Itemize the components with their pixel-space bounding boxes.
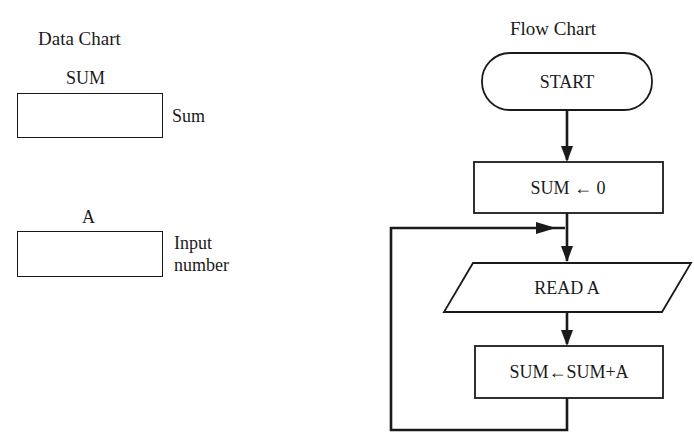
start-node-label: START <box>540 72 594 93</box>
arrowhead-down-icon <box>561 146 573 162</box>
variable-description-sum: Sum <box>172 105 205 127</box>
read-node-label: READ A <box>534 278 600 299</box>
data-chart-title: Data Chart <box>38 28 121 50</box>
arrowhead-down-icon <box>561 330 573 346</box>
variable-box-sum <box>17 93 163 138</box>
variable-name-sum: SUM <box>66 68 105 89</box>
variable-description-a-line1: Input <box>174 232 212 254</box>
init-node-label: SUM ← 0 <box>530 178 605 199</box>
arrowhead-right-icon <box>536 222 556 234</box>
edge-loop-back <box>391 228 567 430</box>
variable-name-a: A <box>82 207 95 228</box>
variable-description-a-line2: number <box>174 254 229 276</box>
accumulate-node-label: SUM←SUM+A <box>509 362 628 383</box>
arrowhead-down-icon <box>561 246 573 262</box>
variable-box-a <box>17 231 163 277</box>
flow-chart-title: Flow Chart <box>510 18 596 40</box>
